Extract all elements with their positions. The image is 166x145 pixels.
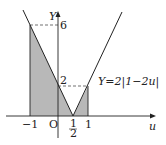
y-tick-2: 2 (60, 74, 67, 87)
origin-label: O (49, 118, 58, 131)
x-axis-arrow-icon (150, 114, 156, 119)
function-graph: Y 6 2 Y=2|1−2u| −1 O 1 2 1 u (0, 0, 166, 145)
function-label: Y=2|1−2u| (98, 75, 159, 89)
x-axis-label: u (149, 120, 156, 133)
x-tick-neg-one: −1 (22, 118, 38, 131)
y-tick-6: 6 (60, 19, 67, 32)
x-tick-half-den: 2 (70, 127, 77, 140)
x-tick-one: 1 (85, 118, 92, 131)
